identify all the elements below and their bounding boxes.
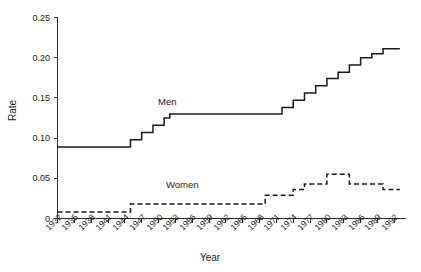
series-annotation-men: Men — [158, 96, 176, 107]
series-line-men — [58, 49, 400, 147]
y-tick-label: 0.05 — [10, 173, 50, 183]
axis-ticks — [54, 18, 395, 223]
line-chart-canvas — [0, 0, 421, 272]
y-tick-label: 0 — [10, 214, 50, 224]
y-tick-label: 0.20 — [10, 53, 50, 63]
y-axis-title: Rate — [7, 86, 18, 136]
series-line-women — [58, 174, 400, 212]
y-tick-label: 0.25 — [10, 13, 50, 23]
chart-figure: 00.050.100.150.200.25 193219351938194119… — [0, 0, 421, 272]
series-annotation-women: Women — [166, 179, 199, 190]
x-axis-title: Year — [150, 252, 270, 263]
axes — [58, 18, 406, 219]
